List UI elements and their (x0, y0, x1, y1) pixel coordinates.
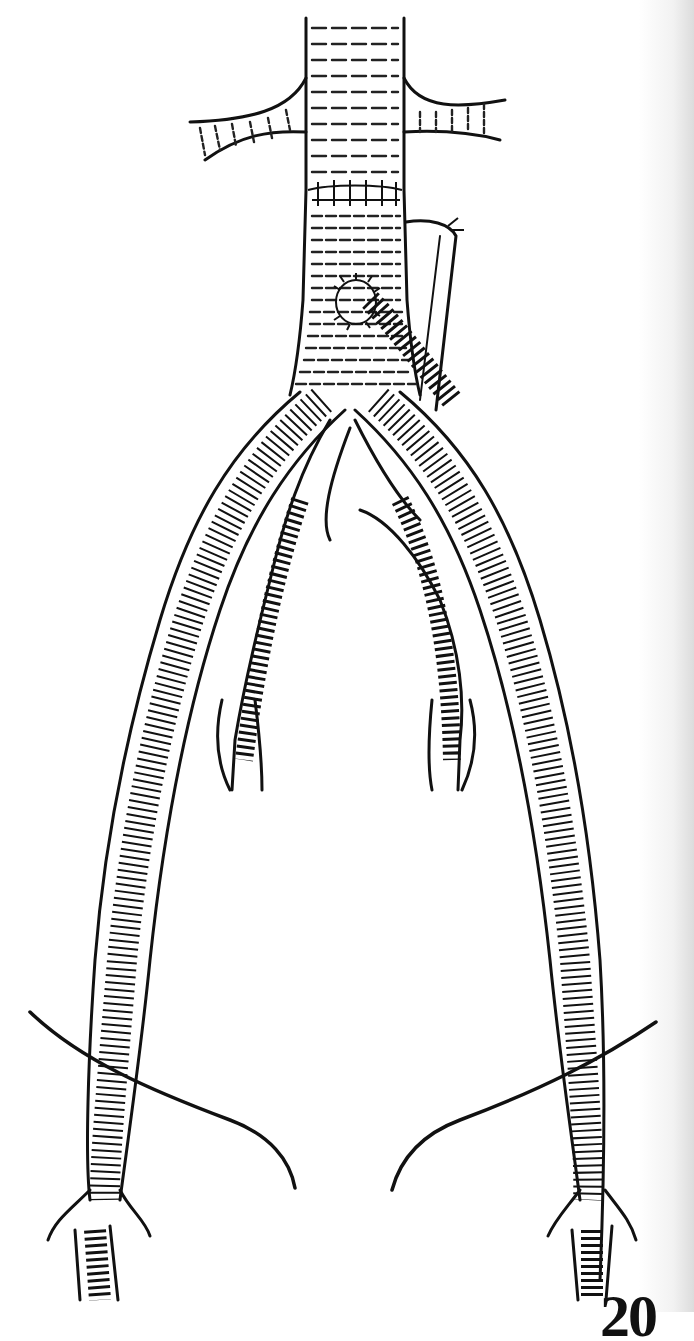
inferior-mesenteric-reimplant (334, 218, 464, 410)
right-graft-limb (355, 392, 604, 1280)
bifurcated-graft-body (296, 216, 416, 384)
page-number: 20 (600, 1286, 656, 1341)
renal-arteries (190, 78, 505, 160)
femoral-bifurcations (48, 1190, 636, 1300)
left-graft-limb (88, 392, 350, 1200)
proximal-anastomosis-sutures (308, 180, 402, 206)
